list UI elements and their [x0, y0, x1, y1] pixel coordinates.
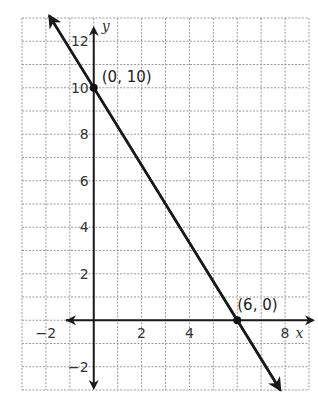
coordinate-plane: −224812108642−2xy (0, 10)(6, 0) [0, 0, 318, 399]
y-tick-label: 8 [80, 126, 89, 142]
y-axis-label: y [101, 18, 111, 34]
x-axis-label: x [295, 325, 303, 341]
y-tick-label: 2 [80, 266, 89, 282]
x-tick-label: 8 [281, 325, 290, 341]
point-marker [233, 316, 241, 324]
x-tick-label: 4 [185, 325, 194, 341]
y-tick-label: 4 [80, 219, 89, 235]
point-marker [90, 84, 98, 92]
y-tick-label: 6 [80, 173, 89, 189]
point-label: (6, 0) [237, 296, 277, 314]
y-tick-label: 12 [71, 33, 89, 49]
point-label: (0, 10) [102, 68, 152, 86]
line-lower-arrow [49, 16, 280, 390]
x-tick-label: −2 [36, 325, 57, 341]
data-line [49, 16, 280, 390]
x-tick-label: 2 [137, 325, 146, 341]
y-tick-label: 10 [71, 80, 89, 96]
y-tick-label: −2 [68, 359, 89, 375]
